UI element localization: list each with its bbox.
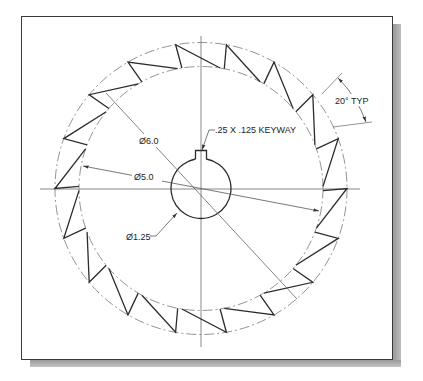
outer-diameter-dimension-line (106, 93, 297, 299)
keyway-leader (202, 130, 215, 150)
keyway-label: .25 X .125 KEYWAY (215, 125, 296, 135)
root-diameter-label: Ø5.0 (134, 172, 154, 182)
tooth-angle-extension-upper (322, 73, 342, 94)
tooth-angle-extension-lower (333, 122, 372, 127)
outer-diameter-label: Ø6.0 (139, 136, 159, 146)
tooth-angle-label: 20° TYP (335, 96, 368, 106)
bore-diameter-leader (150, 213, 177, 236)
bore-diameter-label: Ø1.25 (126, 232, 151, 242)
ratchet-gear-drawing: Ø6.0 Ø5.0 Ø1.25 .25 X .125 KEYWAY 20° TY… (0, 0, 423, 381)
